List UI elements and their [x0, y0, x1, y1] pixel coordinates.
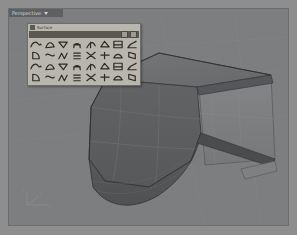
extrude-straight-icon — [112, 50, 124, 61]
smash-icon — [44, 72, 56, 83]
surface-cylinder-icon — [99, 72, 111, 83]
unroll-icon — [30, 72, 42, 83]
tool-button-sweep1[interactable] — [43, 39, 57, 50]
tool-button-smash[interactable] — [43, 72, 57, 83]
heightfield-icon — [57, 50, 69, 61]
tool-button-sweep2[interactable] — [57, 39, 71, 50]
tool-button-surface-box[interactable] — [84, 72, 98, 83]
join-surface-icon — [112, 61, 124, 72]
tool-button-patch[interactable] — [29, 50, 43, 61]
app-window: - - - - - — [0, 0, 297, 235]
split-surface-icon — [85, 61, 97, 72]
drape-icon — [44, 50, 56, 61]
patch-icon — [30, 50, 42, 61]
tool-button-drape[interactable] — [43, 50, 57, 61]
extrude-along-curve-icon — [44, 61, 56, 72]
untrim-icon — [71, 61, 83, 72]
shrink-surface-icon — [71, 72, 83, 83]
planar-curves-icon — [126, 39, 138, 50]
minimize-icon[interactable] — [121, 31, 128, 38]
tool-button-corner-points[interactable] — [112, 39, 126, 50]
tool-button-extrude-tapered[interactable] — [125, 50, 139, 61]
surface-tools-palette[interactable]: Surface — [27, 23, 141, 86]
tool-grid[interactable] — [28, 38, 140, 85]
palette-title-bar[interactable]: Surface — [28, 24, 140, 31]
palette-toolbar-strip[interactable] — [29, 31, 139, 38]
tool-button-chamfer-surface[interactable] — [98, 50, 112, 61]
tool-button-rail-revolve[interactable] — [84, 39, 98, 50]
tool-button-heightfield[interactable] — [57, 50, 71, 61]
surface-sphere-icon — [112, 72, 124, 83]
chevron-down-icon[interactable] — [44, 12, 48, 15]
tool-button-blend-surface[interactable] — [84, 50, 98, 61]
palette-title-label: Surface — [37, 24, 52, 31]
loft-icon — [30, 39, 42, 50]
artifact-text: - - - - - — [274, 0, 293, 6]
tool-button-extrude-straight[interactable] — [112, 50, 126, 61]
surface-box-icon — [85, 72, 97, 83]
tool-button-surface-sphere[interactable] — [112, 72, 126, 83]
sweep2-icon — [57, 39, 69, 50]
drag-grip-icon[interactable] — [30, 25, 35, 30]
extrude-to-point-icon — [30, 61, 42, 72]
gizmo-x-label: x — [49, 203, 52, 208]
tool-button-untrim[interactable] — [70, 61, 84, 72]
revolve-icon — [71, 39, 83, 50]
corner-points-icon — [112, 39, 124, 50]
chamfer-surface-icon — [99, 50, 111, 61]
viewport-title-label: Perspective — [12, 9, 41, 17]
axis-indicator: z x y — [21, 185, 61, 211]
extrude-tapered-icon — [126, 50, 138, 61]
merge-surface-icon — [99, 61, 111, 72]
match-surface-icon — [126, 61, 138, 72]
tool-button-network[interactable] — [98, 39, 112, 50]
tool-button-shrink-surface[interactable] — [70, 72, 84, 83]
tool-button-unroll[interactable] — [29, 72, 43, 83]
tool-button-planar-curves[interactable] — [125, 39, 139, 50]
tool-button-join-surface[interactable] — [112, 61, 126, 72]
tool-button-surface-cylinder[interactable] — [98, 72, 112, 83]
tool-button-match-surface[interactable] — [125, 61, 139, 72]
sweep1-icon — [44, 39, 56, 50]
tool-button-fillet-surface[interactable] — [70, 50, 84, 61]
tool-button-revolve[interactable] — [70, 39, 84, 50]
close-icon[interactable] — [130, 31, 137, 38]
gizmo-z-label: z — [22, 187, 24, 192]
rebuild-surface-icon — [57, 72, 69, 83]
tool-button-extrude-along-curve[interactable] — [43, 61, 57, 72]
offset-surface-icon — [57, 61, 69, 72]
tool-button-loft[interactable] — [29, 39, 43, 50]
tool-button-offset-surface[interactable] — [57, 61, 71, 72]
tool-button-split-surface[interactable] — [84, 61, 98, 72]
blend-surface-icon — [85, 50, 97, 61]
viewport-title-bar[interactable]: Perspective — [9, 9, 63, 17]
perspective-viewport[interactable]: Perspective z x y Surface — [8, 8, 289, 226]
network-icon — [99, 39, 111, 50]
fillet-surface-icon — [71, 50, 83, 61]
tool-button-extrude-to-point[interactable] — [29, 61, 43, 72]
tool-button-rebuild-surface[interactable] — [57, 72, 71, 83]
tool-button-merge-surface[interactable] — [98, 61, 112, 72]
gizmo-y-label: y — [40, 191, 43, 196]
surface-curve-icon — [126, 72, 138, 83]
rail-revolve-icon — [85, 39, 97, 50]
tool-button-surface-curve[interactable] — [125, 72, 139, 83]
